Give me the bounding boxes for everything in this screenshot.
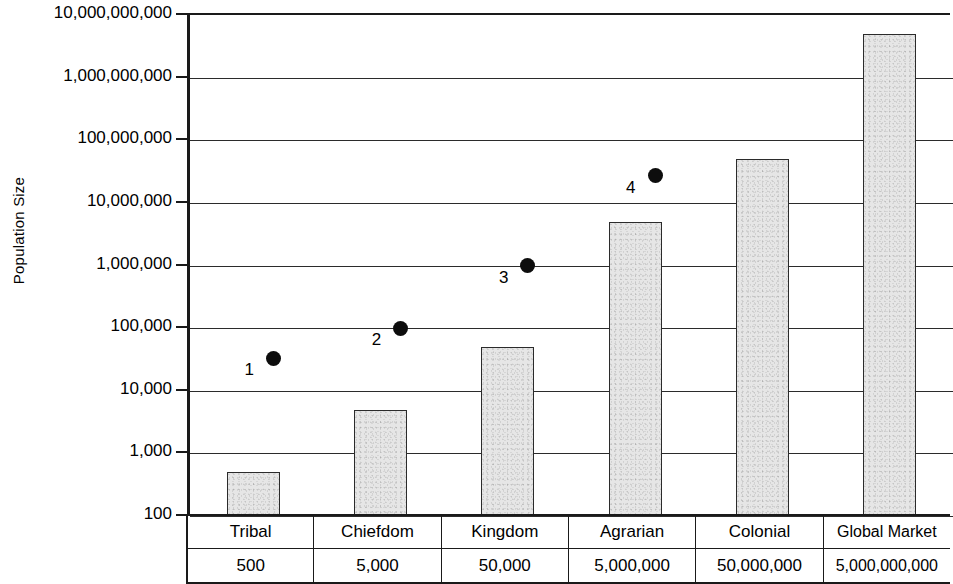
- data-point-label: 1: [245, 361, 254, 378]
- data-point-marker: [393, 321, 408, 336]
- y-axis-tick-label: 10,000: [120, 380, 172, 397]
- table-cell-value: 500: [186, 549, 313, 582]
- table-cell-category: Global Market: [823, 516, 950, 548]
- table-row-values: 5005,00050,0005,000,00050,000,0005,000,0…: [186, 549, 950, 584]
- data-point-label: 3: [499, 269, 508, 286]
- data-point-label: 4: [626, 179, 635, 196]
- data-point-label: 2: [372, 331, 381, 348]
- gridline: [190, 328, 953, 329]
- y-axis-tick-labels: 10,000,000,0001,000,000,000100,000,00010…: [0, 0, 172, 584]
- y-axis-tick-label: 1,000,000,000: [63, 67, 172, 84]
- data-point-marker: [520, 258, 535, 273]
- table-cell-value: 50,000: [441, 549, 568, 582]
- plot-area: 1234: [187, 13, 950, 514]
- gridline: [190, 453, 953, 454]
- table-cell-category: Chiefdom: [313, 516, 440, 548]
- gridline: [190, 140, 953, 141]
- gridline: [190, 78, 953, 79]
- table-cell-category: Colonial: [695, 516, 822, 548]
- bar: [736, 159, 789, 517]
- gridline: [190, 203, 953, 204]
- table-cell-category: Agrarian: [568, 516, 695, 548]
- data-point-marker: [266, 351, 281, 366]
- table-cell-value: 5,000: [313, 549, 440, 582]
- bar: [609, 222, 662, 517]
- bar: [481, 347, 534, 517]
- category-value-table: TribalChiefdomKingdomAgrarianColonialGlo…: [186, 514, 950, 584]
- bar: [354, 410, 407, 517]
- table-cell-value: 50,000,000: [695, 549, 822, 582]
- y-axis-tick-label: 10,000,000,000: [54, 4, 172, 21]
- y-axis-tick-label: 100,000: [111, 317, 172, 334]
- table-cell-category: Tribal: [186, 516, 313, 548]
- table-row-categories: TribalChiefdomKingdomAgrarianColonialGlo…: [186, 514, 950, 549]
- bar: [227, 472, 280, 517]
- y-axis-tick-label: 100: [144, 505, 172, 522]
- table-cell-value: 5,000,000,000: [823, 549, 950, 582]
- y-axis-tick-label: 10,000,000: [87, 192, 172, 209]
- table-cell-category: Kingdom: [441, 516, 568, 548]
- bar: [863, 34, 916, 517]
- y-axis-tick-label: 100,000,000: [77, 129, 172, 146]
- y-axis-tick-label: 1,000: [129, 442, 172, 459]
- data-point-marker: [648, 168, 663, 183]
- gridline: [190, 266, 953, 267]
- y-axis-tick-label: 1,000,000: [96, 255, 172, 272]
- table-cell-value: 5,000,000: [568, 549, 695, 582]
- gridline: [190, 391, 953, 392]
